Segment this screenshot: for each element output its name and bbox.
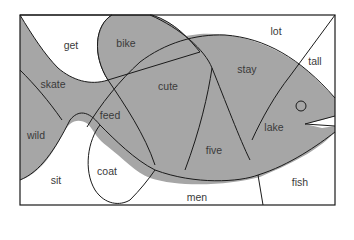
region-label-lot: lot [270, 26, 281, 37]
region-label-lake: lake [264, 122, 283, 133]
region-label-coat: coat [97, 166, 117, 177]
region-label-five: five [206, 145, 222, 156]
region-label-tall: tall [308, 56, 321, 67]
region-label-men: men [187, 192, 207, 203]
region-label-feed: feed [100, 110, 120, 121]
region-label-skate: skate [40, 79, 65, 90]
region-label-get: get [64, 40, 79, 51]
region-label-fish: fish [292, 177, 308, 188]
region-label-wild: wild [27, 130, 45, 141]
region-label-bike: bike [116, 38, 135, 49]
region-label-stay: stay [237, 64, 256, 75]
region-label-cute: cute [158, 81, 178, 92]
region-label-sit: sit [51, 175, 62, 186]
